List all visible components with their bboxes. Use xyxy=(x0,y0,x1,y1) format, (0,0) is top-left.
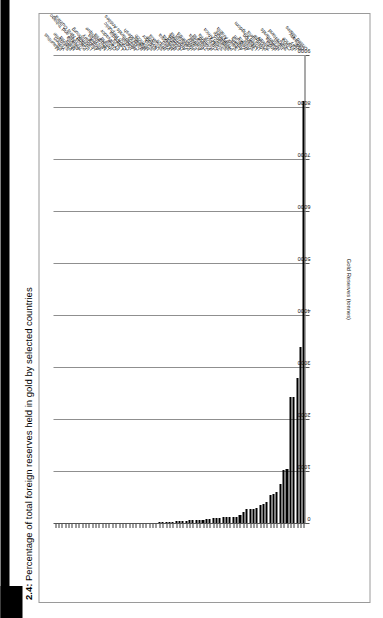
value-axis-tick-label: 0 xyxy=(307,516,310,522)
category-axis-tick xyxy=(132,524,133,528)
category-axis-tick xyxy=(196,524,197,528)
category-axis-tick xyxy=(145,524,146,528)
figure-page: 2.4: Percentage of total foreign reserve… xyxy=(0,0,383,618)
category-axis-tick xyxy=(139,524,140,528)
category-axis-tick xyxy=(266,524,267,528)
figure-title: 2.4: Percentage of total foreign reserve… xyxy=(22,40,34,600)
rotated-page-wrapper: 2.4: Percentage of total foreign reserve… xyxy=(0,0,383,618)
value-axis-tick xyxy=(305,419,309,420)
category-axis-tick xyxy=(75,524,76,528)
page-spine-tab xyxy=(0,586,22,618)
plot-area: United StatesGermanyIMFItalyFranceChinaS… xyxy=(53,56,305,524)
category-axis-tick xyxy=(283,524,284,528)
category-axis-tick xyxy=(85,524,86,528)
category-axis-tick xyxy=(219,524,220,528)
category-axis-tick xyxy=(105,524,106,528)
category-axis-tick xyxy=(229,524,230,528)
category-axis-tick xyxy=(112,524,113,528)
category-axis-tick xyxy=(149,524,150,528)
category-axis-tick xyxy=(92,524,93,528)
figure-number: 2.4: xyxy=(22,584,33,600)
category-axis-tick xyxy=(108,524,109,528)
category-axis-tick xyxy=(182,524,183,528)
category-axis-tick xyxy=(213,524,214,528)
category-axis-tick xyxy=(58,524,59,528)
category-axis-tick xyxy=(293,524,294,528)
category-axis-line xyxy=(53,523,305,524)
category-axis-tick xyxy=(243,524,244,528)
category-axis-tick xyxy=(253,524,254,528)
category-axis-tick xyxy=(236,524,237,528)
category-axis-tick xyxy=(280,524,281,528)
category-axis-tick xyxy=(159,524,160,528)
category-axis-tick xyxy=(199,524,200,528)
category-axis-tick xyxy=(176,524,177,528)
category-axis-tick xyxy=(303,524,304,528)
value-axis-tick-label: 8000 xyxy=(297,100,310,106)
page-spine-bar xyxy=(0,0,9,618)
category-axis-tick xyxy=(223,524,224,528)
category-axis-tick xyxy=(300,524,301,528)
category-axis-tick xyxy=(239,524,240,528)
value-axis-tick-label: 7000 xyxy=(297,152,310,158)
value-axis-tick-label: 5000 xyxy=(297,256,310,262)
category-axis-labels: United StatesGermanyIMFItalyFranceChinaS… xyxy=(53,56,305,524)
category-axis-tick xyxy=(246,524,247,528)
category-axis-tick xyxy=(216,524,217,528)
category-axis-tick xyxy=(155,524,156,528)
category-axis-tick xyxy=(226,524,227,528)
category-axis-tick xyxy=(71,524,72,528)
category-axis-tick xyxy=(65,524,66,528)
value-axis-title: Gold Reserves (tonnes) xyxy=(345,259,351,320)
category-axis-tick xyxy=(172,524,173,528)
value-axis-tick xyxy=(305,55,309,56)
figure-title-text: Percentage of total foreign reserves hel… xyxy=(22,287,33,581)
category-axis-tick xyxy=(68,524,69,528)
category-axis-tick xyxy=(189,524,190,528)
category-axis-tick xyxy=(209,524,210,528)
category-axis-tick xyxy=(115,524,116,528)
value-axis-tick xyxy=(305,263,309,264)
category-axis-tick xyxy=(179,524,180,528)
value-axis-tick-label: 4000 xyxy=(297,308,310,314)
category-axis-tick xyxy=(256,524,257,528)
value-axis-tick xyxy=(305,159,309,160)
value-axis-tick-label: 9000 xyxy=(297,48,310,54)
value-axis-tick-label: 1000 xyxy=(297,464,310,470)
category-axis-tick xyxy=(125,524,126,528)
category-axis-tick xyxy=(98,524,99,528)
category-axis-tick xyxy=(166,524,167,528)
category-axis-tick xyxy=(122,524,123,528)
category-axis-tick xyxy=(270,524,271,528)
value-axis-tick xyxy=(305,211,309,212)
category-axis-tick xyxy=(78,524,79,528)
category-axis-tick xyxy=(55,524,56,528)
category-axis-tick xyxy=(206,524,207,528)
category-axis-tick xyxy=(135,524,136,528)
category-axis-tick xyxy=(186,524,187,528)
category-axis-tick xyxy=(162,524,163,528)
category-axis-tick xyxy=(273,524,274,528)
category-axis-tick xyxy=(119,524,120,528)
category-axis-tick xyxy=(290,524,291,528)
value-axis-line xyxy=(304,56,305,524)
value-axis-tick-label: 6000 xyxy=(297,204,310,210)
category-axis-tick xyxy=(169,524,170,528)
category-axis-tick xyxy=(287,524,288,528)
value-axis-tick-label: 3000 xyxy=(297,360,310,366)
value-axis-tick-label: 2000 xyxy=(297,412,310,418)
category-axis-tick xyxy=(263,524,264,528)
category-axis-tick xyxy=(129,524,130,528)
value-axis-tick xyxy=(305,107,309,108)
category-axis-tick xyxy=(82,524,83,528)
chart-frame: United StatesGermanyIMFItalyFranceChinaS… xyxy=(38,13,370,603)
category-axis-tick xyxy=(192,524,193,528)
category-axis-tick xyxy=(203,524,204,528)
category-axis-tick xyxy=(297,524,298,528)
category-axis-tick xyxy=(152,524,153,528)
category-axis-tick xyxy=(102,524,103,528)
value-axis-tick xyxy=(305,367,309,368)
category-axis-tick xyxy=(95,524,96,528)
category-axis-tick xyxy=(276,524,277,528)
category-axis-tick xyxy=(142,524,143,528)
